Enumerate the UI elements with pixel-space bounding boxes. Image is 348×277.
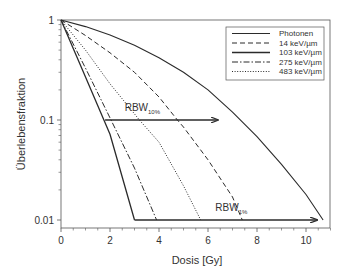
legend-label-1: 14 keV/µm (279, 39, 318, 48)
legend: Photonen14 keV/µm103 keV/µm275 keV/µm483… (226, 27, 324, 80)
x-tick-label: 0 (58, 235, 64, 246)
legend-label-2: 103 keV/µm (279, 48, 322, 57)
x-tick-label: 8 (254, 235, 260, 246)
rbw-label-0: RBW10% (125, 102, 161, 115)
rbw-label-1: RBW1% (215, 202, 248, 215)
y-tick-label: 1 (48, 15, 54, 26)
legend-label-3: 275 keV/µm (279, 58, 322, 67)
legend-label-0: Photonen (279, 29, 313, 38)
y-tick-label: 0.01 (35, 215, 55, 226)
survival-curve-chart: RBW10%RBW1% 024681010.10.01 Photonen14 k… (0, 0, 348, 277)
x-axis-title: Dosis [Gy] (172, 254, 223, 266)
x-tick-label: 2 (107, 235, 113, 246)
legend-label-4: 483 keV/µm (279, 67, 322, 76)
x-tick-label: 6 (205, 235, 211, 246)
y-tick-label: 0.1 (40, 115, 54, 126)
x-tick-label: 10 (300, 235, 312, 246)
chart-canvas: RBW10%RBW1% 024681010.10.01 Photonen14 k… (0, 0, 348, 277)
y-axis-title: Überlebensfraktion (15, 78, 27, 170)
x-tick-label: 4 (156, 235, 162, 246)
annotation-layer: RBW10%RBW1% (105, 102, 317, 220)
